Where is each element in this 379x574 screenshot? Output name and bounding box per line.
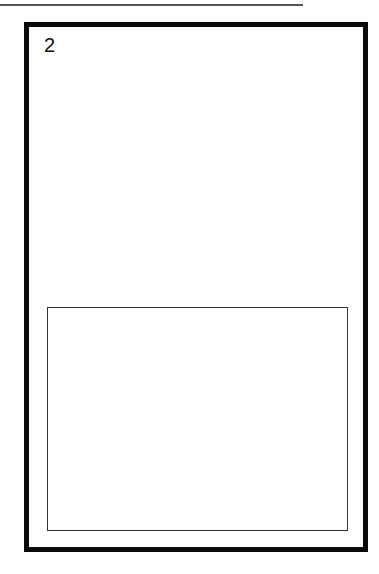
inner-content-box <box>47 307 348 531</box>
top-rule-divider <box>0 4 303 6</box>
page-number: 2 <box>44 35 55 55</box>
